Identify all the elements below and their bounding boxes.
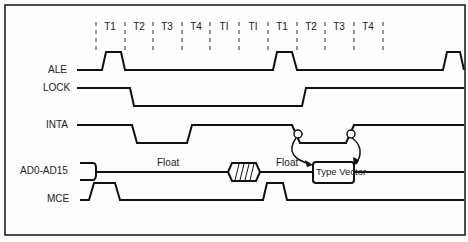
signal-label-ale: ALE bbox=[48, 64, 67, 75]
inta-edge-marker-2 bbox=[347, 130, 355, 138]
inta-waveform bbox=[77, 125, 464, 143]
float-label-1: Float bbox=[157, 157, 179, 168]
arrowhead-1 bbox=[305, 160, 313, 167]
clock-label: T1 bbox=[268, 21, 296, 32]
clock-label: T3 bbox=[153, 21, 181, 32]
lock-waveform bbox=[77, 88, 464, 106]
hatched-address-box bbox=[228, 163, 260, 181]
signal-label-mce: MCE bbox=[47, 193, 69, 204]
signal-label-ad0-ad15: AD0-AD15 bbox=[20, 165, 68, 176]
float-label-2: Float bbox=[276, 157, 298, 168]
ale-waveform bbox=[77, 52, 464, 70]
clock-label: T3 bbox=[325, 21, 353, 32]
type-vector-label: Type Vector bbox=[316, 166, 366, 177]
clock-label: T4 bbox=[354, 21, 382, 32]
clock-label: TI bbox=[210, 21, 238, 32]
clock-label: T2 bbox=[125, 21, 153, 32]
clock-label: TI bbox=[239, 21, 267, 32]
ad-bus-waveform bbox=[80, 163, 464, 180]
clock-label: T4 bbox=[182, 21, 210, 32]
signal-label-lock: LOCK bbox=[43, 82, 70, 93]
clock-label: T2 bbox=[297, 21, 325, 32]
signal-label-inta: INTA bbox=[46, 119, 68, 130]
inta-edge-marker-1 bbox=[294, 130, 302, 138]
causal-arrows bbox=[292, 138, 360, 164]
clock-label: T1 bbox=[96, 21, 124, 32]
mce-waveform bbox=[80, 183, 464, 200]
timing-diagram-canvas bbox=[0, 0, 468, 242]
